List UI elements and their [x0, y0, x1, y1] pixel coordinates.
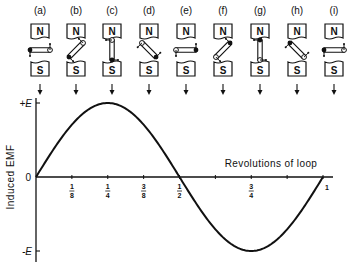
- x-tick-numerator: 1: [70, 183, 74, 190]
- x-tick-numerator: 1: [178, 183, 182, 190]
- arrowhead-icon: [49, 43, 51, 45]
- emf-graph: +E-E0Induced EMFRevolutions of loop18143…: [5, 98, 333, 262]
- generator-emf-diagram: (a)NS(b)NS(c)NS(d)NS(e)NS(f)NS(g)NS(h)NS…: [0, 0, 353, 273]
- south-label: S: [146, 65, 153, 76]
- x-tick-numerator: 3: [142, 183, 146, 190]
- y-axis-title: Induced EMF: [5, 145, 16, 210]
- south-label: S: [257, 65, 264, 76]
- coil-loop-icon: [110, 40, 114, 60]
- panel-label: (a): [34, 5, 46, 16]
- down-arrowhead-icon: [74, 90, 79, 95]
- panel-b: (b)NS: [67, 5, 86, 95]
- south-label: S: [331, 65, 338, 76]
- arrowhead-icon: [175, 55, 177, 57]
- panel-c: (c)NS: [103, 5, 121, 95]
- panel-label: (c): [106, 5, 118, 16]
- panel-i: (i)NS: [322, 5, 347, 95]
- arrowhead-icon: [219, 60, 221, 62]
- arrowhead-icon: [285, 46, 287, 48]
- down-arrowhead-icon: [221, 90, 226, 95]
- down-arrowhead-icon: [258, 90, 263, 95]
- x-tick-denominator: 4: [249, 192, 253, 199]
- arrowhead-icon: [343, 43, 345, 45]
- north-label: N: [36, 26, 43, 37]
- north-label: N: [293, 26, 300, 37]
- coil-loop-icon: [176, 48, 196, 52]
- coil-loop-icon: [324, 48, 344, 52]
- x-tick-denominator: 4: [106, 192, 110, 199]
- panel-label: (f): [218, 5, 227, 16]
- arrowhead-icon: [105, 39, 107, 41]
- arrowhead-icon: [159, 52, 161, 54]
- panel-g: (g)NS: [251, 5, 269, 95]
- origin-label: 0: [25, 172, 31, 183]
- x-tick-denominator: 8: [142, 192, 146, 199]
- arrowhead-icon: [78, 38, 80, 40]
- south-label: S: [220, 65, 227, 76]
- north-label: N: [219, 26, 226, 37]
- north-label: N: [330, 26, 337, 37]
- down-arrowhead-icon: [184, 90, 189, 95]
- arrowhead-icon: [117, 59, 119, 61]
- coil-loop-icon: [258, 40, 262, 60]
- y-min-label: -E: [22, 246, 32, 257]
- arrowhead-icon: [265, 59, 267, 61]
- panel-label: (i): [330, 5, 339, 16]
- panel-label: (d): [143, 5, 155, 16]
- panel-label: (g): [254, 5, 266, 16]
- x-tick-numerator: 1: [106, 183, 110, 190]
- panel-h: (h)NS: [285, 5, 310, 95]
- panel-a: (a)NS: [28, 5, 53, 95]
- y-max-label: +E: [19, 98, 32, 109]
- panel-f: (f)NS: [214, 5, 233, 95]
- south-label: S: [37, 65, 44, 76]
- x-tick-numerator: 3: [249, 183, 253, 190]
- down-arrowhead-icon: [38, 90, 43, 95]
- arrowhead-icon: [195, 43, 197, 45]
- north-label: N: [182, 26, 189, 37]
- down-arrowhead-icon: [147, 90, 152, 95]
- coil-loop-icon: [30, 48, 50, 52]
- panel-label: (b): [70, 5, 82, 16]
- south-label: S: [73, 65, 80, 76]
- x-tick-label: 1: [325, 184, 329, 191]
- panel-d: (d)NS: [137, 5, 162, 95]
- x-axis-title: Revolutions of loop: [225, 158, 318, 169]
- x-tick-denominator: 2: [178, 192, 182, 199]
- x-tick-denominator: 8: [70, 192, 74, 199]
- south-label: S: [109, 65, 116, 76]
- south-label: S: [294, 65, 301, 76]
- down-arrowhead-icon: [332, 90, 337, 95]
- arrowhead-icon: [323, 55, 325, 57]
- panel-e: (e)NS: [174, 5, 199, 95]
- north-label: N: [72, 26, 79, 37]
- north-label: N: [256, 26, 263, 37]
- arrowhead-icon: [137, 46, 139, 48]
- down-arrowhead-icon: [295, 90, 300, 95]
- arrowhead-icon: [307, 52, 309, 54]
- arrowhead-icon: [225, 38, 227, 40]
- arrowhead-icon: [253, 39, 255, 41]
- south-label: S: [183, 65, 190, 76]
- north-label: N: [145, 26, 152, 37]
- panel-label: (e): [180, 5, 192, 16]
- down-arrowhead-icon: [110, 90, 115, 95]
- arrowhead-icon: [72, 60, 74, 62]
- north-label: N: [108, 26, 115, 37]
- arrowhead-icon: [29, 55, 31, 57]
- panel-label: (h): [291, 5, 303, 16]
